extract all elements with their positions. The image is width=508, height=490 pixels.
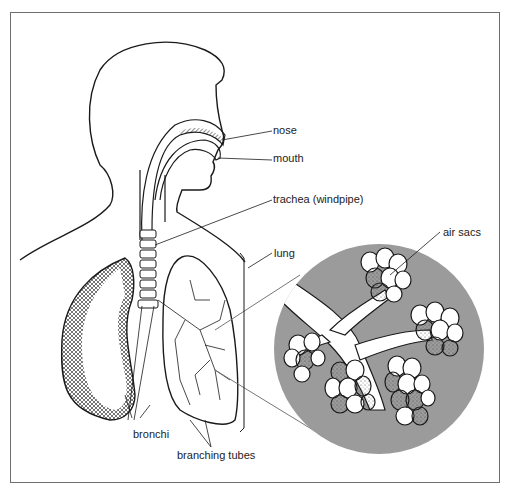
label-lung: lung [274,247,295,259]
respiratory-system-illustration [0,0,508,490]
label-air-sacs: air sacs [443,226,481,238]
label-bronchi: bronchi [133,428,169,440]
label-mouth: mouth [273,152,304,164]
alveoli-magnifier [274,244,484,454]
label-branching-tubes: branching tubes [177,449,255,461]
trachea [138,230,158,308]
lung-right [158,256,238,424]
airway-head [140,120,225,240]
lung-left [62,258,135,420]
lung-bracket [240,253,244,432]
label-nose: nose [273,124,297,136]
label-trachea: trachea (windpipe) [273,193,364,205]
body-outline [20,42,245,262]
